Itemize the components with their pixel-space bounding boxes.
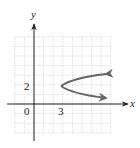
- graph: x y 0 3 2: [0, 0, 140, 148]
- parabola-curve-lower: [61, 86, 106, 98]
- y-axis-label: y: [30, 8, 36, 20]
- x-axis-label: x: [129, 97, 135, 109]
- origin-label: 0: [24, 105, 30, 117]
- parabola-curve: [61, 74, 106, 86]
- y-tick-label-2: 2: [24, 80, 30, 92]
- x-tick-label-3: 3: [58, 105, 64, 117]
